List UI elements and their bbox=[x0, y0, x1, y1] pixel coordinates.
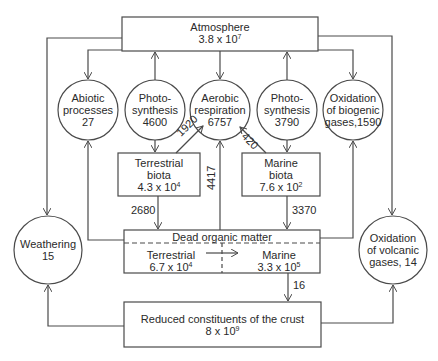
mb-line2: biota bbox=[242, 169, 320, 181]
aerobic-line2: respiration bbox=[190, 104, 250, 116]
aerobic-respiration-node: Aerobic respiration 6757 bbox=[190, 92, 250, 128]
ox-volc-line3: gases, 14 bbox=[359, 256, 427, 268]
value-exponent: 2 bbox=[299, 181, 303, 188]
value-exponent: 5 bbox=[297, 261, 301, 268]
dom-t-value: 6.7 x 104 bbox=[140, 261, 202, 273]
value-base: 3.8 x 10 bbox=[198, 33, 237, 45]
aerobic-line1: Aerobic bbox=[190, 92, 250, 104]
crust-value: 8 x 109 bbox=[124, 325, 321, 337]
abiotic-line2: processes bbox=[58, 104, 118, 116]
photo-m-value: 3790 bbox=[257, 116, 317, 128]
tb-line1: Terrestrial bbox=[118, 157, 200, 169]
ox-bio-line3: gases,1590 bbox=[323, 116, 383, 128]
dead-organic-matter-title: Dead organic matter bbox=[124, 231, 320, 243]
flux-2680: 2680 bbox=[131, 204, 155, 216]
abiotic-processes-node: Abiotic processes 27 bbox=[58, 92, 118, 128]
tb-line2: biota bbox=[118, 169, 200, 181]
atmosphere-title: Atmosphere bbox=[122, 21, 318, 33]
value-base: 8 x 10 bbox=[206, 325, 236, 337]
abiotic-line1: Abiotic bbox=[58, 92, 118, 104]
crust-label: Reduced constituents of the crust 8 x 10… bbox=[124, 313, 321, 337]
abiotic-value: 27 bbox=[58, 116, 118, 128]
value-exponent: 4 bbox=[177, 181, 181, 188]
photo-m-line1: Photo- bbox=[257, 92, 317, 104]
ox-volc-line1: Oxidation bbox=[359, 232, 427, 244]
photo-m-line2: synthesis bbox=[257, 104, 317, 116]
weathering-node: Weathering 15 bbox=[14, 238, 82, 262]
flux-3370: 3370 bbox=[292, 204, 316, 216]
atmosphere-label: Atmosphere 3.8 x 107 bbox=[122, 21, 318, 45]
oxidation-biogenic-node: Oxidation of biogenic gases,1590 bbox=[323, 92, 383, 128]
crust-title: Reduced constituents of the crust bbox=[124, 313, 321, 325]
aerobic-value: 6757 bbox=[190, 116, 250, 128]
weathering-value: 15 bbox=[14, 250, 82, 262]
mb-line1: Marine bbox=[242, 157, 320, 169]
value-exponent: 9 bbox=[236, 325, 240, 332]
value-base: 3.3 x 10 bbox=[257, 261, 296, 273]
photo-t-line1: Photo- bbox=[125, 92, 185, 104]
value-base: 6.7 x 10 bbox=[149, 261, 188, 273]
marine-biota-label: Marine biota 7.6 x 102 bbox=[242, 157, 320, 193]
dom-t-label: Terrestrial bbox=[140, 249, 202, 261]
value-base: 4.3 x 10 bbox=[137, 181, 176, 193]
ox-volc-line2: of volcanic bbox=[359, 244, 427, 256]
terrestrial-biota-label: Terrestrial biota 4.3 x 104 bbox=[118, 157, 200, 193]
flux-4417: 4417 bbox=[205, 166, 217, 190]
atmosphere-value: 3.8 x 107 bbox=[122, 33, 318, 45]
dom-m-label: Marine bbox=[248, 249, 310, 261]
dom-m-value: 3.3 x 105 bbox=[248, 261, 310, 273]
oxygen-cycle-diagram: Atmosphere 3.8 x 107 Abiotic processes 2… bbox=[0, 0, 438, 361]
diagram-lines bbox=[0, 0, 438, 361]
photosynthesis-terrestrial-node: Photo- synthesis 4600 bbox=[125, 92, 185, 128]
value-exponent: 7 bbox=[238, 33, 242, 40]
photosynthesis-marine-node: Photo- synthesis 3790 bbox=[257, 92, 317, 128]
tb-value: 4.3 x 104 bbox=[118, 181, 200, 193]
ox-bio-line2: of biogenic bbox=[323, 104, 383, 116]
value-base: 7.6 x 10 bbox=[259, 181, 298, 193]
flux-16: 16 bbox=[293, 279, 305, 291]
dead-marine-label: Marine 3.3 x 105 bbox=[248, 249, 310, 273]
value-exponent: 4 bbox=[189, 261, 193, 268]
mb-value: 7.6 x 102 bbox=[242, 181, 320, 193]
dead-terrestrial-label: Terrestrial 6.7 x 104 bbox=[140, 249, 202, 273]
oxidation-volcanic-node: Oxidation of volcanic gases, 14 bbox=[359, 232, 427, 268]
photo-t-line2: synthesis bbox=[125, 104, 185, 116]
ox-bio-line1: Oxidation bbox=[323, 92, 383, 104]
weathering-label: Weathering bbox=[14, 238, 82, 250]
